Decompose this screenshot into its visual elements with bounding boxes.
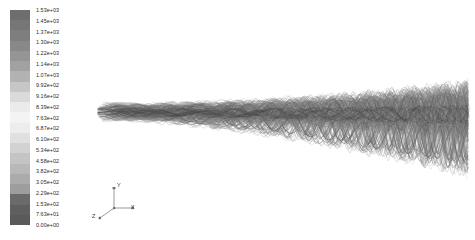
colorbar-band (10, 205, 30, 216)
colorbar-tick-label: 7.63e+01 (36, 211, 59, 217)
axis-label-z: Z (92, 213, 95, 219)
colorbar-band (10, 82, 30, 93)
colorbar-tick-label: 8.39e+02 (36, 104, 59, 110)
colorbar (10, 10, 30, 225)
colorbar-band (10, 194, 30, 205)
colorbar-tick-label: 5.34e+02 (36, 147, 59, 153)
colorbar-band (10, 10, 30, 21)
colorbar-band (10, 133, 30, 144)
colorbar-band (10, 71, 30, 82)
colorbar-band (10, 215, 30, 226)
colorbar-tick-label: 1.14e+03 (36, 61, 59, 67)
colorbar-tick-label: 1.45e+03 (36, 18, 59, 24)
colorbar-tick-label: 3.82e+02 (36, 168, 59, 174)
axis-triad: Y X Z (92, 182, 138, 226)
colorbar-tick-label: 7.63e+02 (36, 115, 59, 121)
colorbar-tick-label: 1.22e+03 (36, 50, 59, 56)
colorbar-tick-label: 1.53e+03 (36, 7, 59, 13)
colorbar-band (10, 164, 30, 175)
colorbar-band (10, 20, 30, 31)
colorbar-band (10, 51, 30, 62)
colorbar-tick-label: 6.87e+02 (36, 125, 59, 131)
colorbar-band (10, 30, 30, 41)
colorbar-tick-label: 6.10e+02 (36, 136, 59, 142)
colorbar-band (10, 102, 30, 113)
colorbar-tick-label: 1.53e+02 (36, 201, 59, 207)
colorbar-tick-label: 9.92e+02 (36, 82, 59, 88)
colorbar-tick-label: 3.05e+02 (36, 179, 59, 185)
colorbar-tick-label: 1.07e+03 (36, 72, 59, 78)
colorbar-band (10, 112, 30, 123)
colorbar-band (10, 143, 30, 154)
colorbar-band (10, 153, 30, 164)
axis-label-y: Y (117, 182, 121, 188)
colorbar-band (10, 41, 30, 52)
colorbar-band (10, 92, 30, 103)
colorbar-tick-label: 1.30e+03 (36, 39, 59, 45)
colorbar-band (10, 174, 30, 185)
colorbar-tick-label: 0.00e+00 (36, 222, 59, 228)
colorbar-tick-label: 9.16e+02 (36, 93, 59, 99)
colorbar-band (10, 123, 30, 134)
colorbar-tick-label: 4.58e+02 (36, 158, 59, 164)
colorbar-tick-labels: 1.53e+031.45e+031.37e+031.30e+031.22e+03… (36, 0, 80, 240)
colorbar-tick-label: 1.37e+03 (36, 29, 59, 35)
figure-canvas: 1.53e+031.45e+031.37e+031.30e+031.22e+03… (0, 0, 475, 240)
axis-label-x: X (131, 204, 135, 210)
colorbar-band (10, 61, 30, 72)
colorbar-band (10, 184, 30, 195)
colorbar-tick-label: 2.29e+02 (36, 190, 59, 196)
